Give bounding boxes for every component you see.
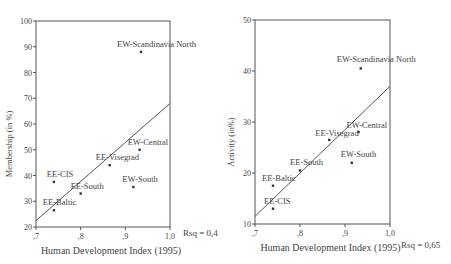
point-label: EE-CIS xyxy=(264,196,291,206)
point-label: EW-South xyxy=(122,174,158,184)
x-tick-label: ,8 xyxy=(297,229,303,238)
rsq-annotation: Rsq = 0,4 xyxy=(183,228,218,238)
point-label: EE-Visegrad xyxy=(315,128,359,138)
point-label: EE-CIS xyxy=(47,169,74,179)
point-label: EW-Scandinavia North xyxy=(117,39,197,49)
point-label: EE-South xyxy=(71,181,105,191)
y-tick-label: 100 xyxy=(20,17,32,26)
data-point xyxy=(272,208,274,210)
y-tick-label: 90 xyxy=(24,43,32,52)
data-point xyxy=(132,186,134,188)
point-label: EE-South xyxy=(290,157,324,167)
data-point xyxy=(351,162,353,164)
data-point xyxy=(272,185,274,187)
x-tick-label: ,7 xyxy=(33,232,39,241)
y-axis-title: Membership (in %) xyxy=(4,111,14,178)
y-tick-label: 50 xyxy=(24,146,32,155)
point-label: EW-South xyxy=(341,149,377,159)
data-point xyxy=(53,209,55,211)
y-tick-label: 60 xyxy=(24,120,32,129)
data-point xyxy=(138,149,140,151)
data-point xyxy=(299,169,301,171)
x-tick-label: 1,0 xyxy=(385,229,395,238)
chart-2: 1020304050,7,8,91,0Human Development Ind… xyxy=(226,16,441,254)
data-point xyxy=(360,67,362,69)
scatter-charts: 2030405060708090100,7,8,91,0Human Develo… xyxy=(0,0,451,264)
y-tick-label: 20 xyxy=(243,169,251,178)
x-tick-label: ,7 xyxy=(252,229,258,238)
point-label: EE-Baltic xyxy=(262,173,296,183)
y-tick-label: 70 xyxy=(24,94,32,103)
x-tick-label: 1,0 xyxy=(165,232,175,241)
y-axis-title: Activity (in%) xyxy=(226,117,236,167)
x-axis-title: Human Development Index (1995) xyxy=(260,242,400,254)
x-axis-title: Human Development Index (1995) xyxy=(41,245,181,257)
y-tick-label: 80 xyxy=(24,69,32,78)
y-tick-label: 30 xyxy=(243,118,251,127)
point-label: EE-Baltic xyxy=(43,197,77,207)
point-label: EE-Visegrad xyxy=(96,152,140,162)
y-tick-label: 20 xyxy=(24,223,32,232)
chart-1: 2030405060708090100,7,8,91,0Human Develo… xyxy=(4,17,218,257)
data-point xyxy=(79,192,81,194)
x-tick-label: ,8 xyxy=(78,232,84,241)
rsq-annotation: Rsq = 0,65 xyxy=(401,240,441,250)
y-tick-label: 40 xyxy=(24,172,32,181)
plot-frame xyxy=(36,21,170,227)
y-tick-label: 50 xyxy=(243,16,251,25)
x-tick-label: ,9 xyxy=(342,229,348,238)
data-point xyxy=(328,139,330,141)
data-point xyxy=(140,51,142,53)
y-tick-label: 40 xyxy=(243,67,251,76)
y-tick-label: 30 xyxy=(24,197,32,206)
y-tick-label: 10 xyxy=(243,220,251,229)
data-point xyxy=(53,181,55,183)
point-label: EW-Scandinavia North xyxy=(337,54,417,64)
data-point xyxy=(109,164,111,166)
x-tick-label: ,9 xyxy=(122,232,128,241)
point-label: EW-Central xyxy=(128,137,169,147)
